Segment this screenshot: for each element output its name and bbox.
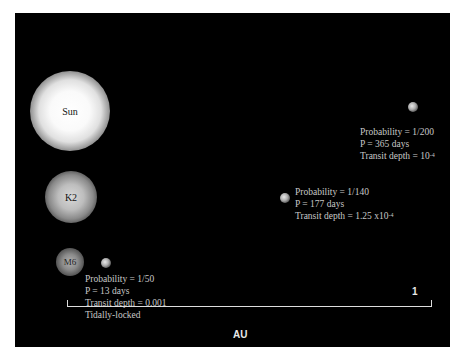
m6-planet-probability: Probability = 1/50 <box>85 273 167 285</box>
sun-planet-probability: Probability = 1/200 <box>360 126 435 138</box>
earth-planet-k2-icon <box>280 193 290 203</box>
earth-planet-m6-icon <box>101 258 111 268</box>
sun-planet-period: P = 365 days <box>360 138 435 150</box>
m6-star: M6 <box>56 248 84 276</box>
k2-label: K2 <box>65 192 77 203</box>
axis-unit-label: AU <box>233 329 247 340</box>
m6-planet-info: Probability = 1/50 P = 13 days Transit d… <box>85 273 167 321</box>
k2-planet-transit: Transit depth = 1.25 x10-4 <box>295 210 393 222</box>
sun-planet-info: Probability = 1/200 P = 365 days Transit… <box>360 126 435 162</box>
k2-star: K2 <box>45 171 97 223</box>
diagram-panel: Sun K2 M6 Probability = 1/200 P = 365 da… <box>15 13 450 347</box>
sun-planet-transit: Transit depth = 10-4 <box>360 150 435 162</box>
m6-planet-period: P = 13 days <box>85 285 167 297</box>
au-scale-bracket <box>67 300 432 307</box>
sun-star: Sun <box>30 71 110 151</box>
k2-planet-info: Probability = 1/140 P = 177 days Transit… <box>295 186 393 222</box>
k2-planet-probability: Probability = 1/140 <box>295 186 393 198</box>
scale-end-label: 1 <box>412 286 418 297</box>
m6-planet-note: Tidally-locked <box>85 309 167 321</box>
earth-planet-sun-icon <box>408 102 418 112</box>
sun-label: Sun <box>62 106 78 117</box>
k2-planet-period: P = 177 days <box>295 198 393 210</box>
m6-label: M6 <box>64 257 77 267</box>
